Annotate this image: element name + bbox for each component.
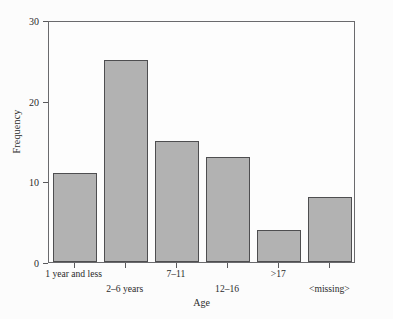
bar [155, 141, 199, 262]
plot-area [48, 21, 355, 263]
y-tick-label: 0 [20, 258, 44, 269]
bar [257, 230, 301, 262]
y-tick-label: 10 [20, 177, 44, 188]
y-axis-tick-labels: 0102030 [20, 0, 44, 319]
x-axis-title-label: Age [193, 297, 210, 308]
x-tick-label: 2–6 years [106, 283, 143, 294]
bar [104, 60, 148, 262]
y-tick-label: 30 [20, 16, 44, 27]
x-tick-label: 12–16 [215, 283, 239, 294]
bar-chart-figure: Frequency 0102030 1 year and less2–6 yea… [0, 0, 393, 319]
bar [308, 197, 352, 262]
x-tick-mark [125, 263, 126, 268]
bar [53, 173, 97, 262]
x-tick-mark [329, 263, 330, 268]
x-tick-label: <missing> [309, 283, 350, 294]
x-tick-label: 1 year and less [45, 268, 102, 279]
x-tick-label: >17 [271, 268, 286, 279]
x-tick-mark [227, 263, 228, 268]
y-tick-label: 20 [20, 96, 44, 107]
bar-series [49, 22, 354, 262]
bar [206, 157, 250, 262]
x-tick-label: 7–11 [166, 268, 185, 279]
x-axis-title: Age [48, 297, 355, 308]
